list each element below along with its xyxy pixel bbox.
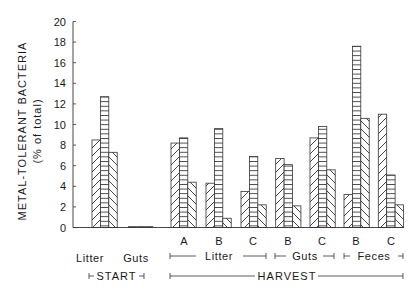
bar (249, 156, 257, 227)
bar (171, 143, 179, 227)
y-axis-title: METAL-TOLERANT BACTERIA (16, 42, 28, 221)
harvest-litter-label: Litter (205, 250, 233, 262)
y-tick-label: 8 (60, 139, 66, 151)
y-tick-label: 16 (54, 57, 66, 69)
harvest-guts-label: Guts (292, 250, 318, 262)
y-tick-label: 20 (54, 16, 66, 28)
bar (179, 138, 187, 228)
bar (310, 138, 318, 228)
bars (92, 46, 404, 227)
bar (206, 183, 214, 227)
bar (188, 182, 196, 227)
y-tick-label: 0 (60, 222, 66, 234)
bar (387, 175, 395, 228)
x-sub-label: A (180, 235, 188, 247)
x-sub-label: C (387, 235, 395, 247)
bar-chart: 02468101214161820 METAL-TOLERANT BACTERI… (0, 0, 419, 295)
start-litter-label: Litter (76, 252, 104, 264)
x-sub-labels: A B C B C B C (180, 235, 395, 247)
y-tick-label: 2 (60, 201, 66, 213)
bar-group-harvest-guts-c (310, 127, 335, 228)
bar-group-harvest-litter-a (171, 138, 196, 228)
x-sub-label: C (249, 235, 257, 247)
x-group-labels: Litter Guts Litter Guts Feces (76, 250, 403, 264)
y-tick-label: 6 (60, 160, 66, 172)
harvest-feces-label: Feces (358, 250, 391, 262)
bar-group-harvest-litter-b (206, 129, 231, 228)
y-tick-label: 10 (54, 119, 66, 131)
y-tick-label: 14 (54, 77, 66, 89)
bar (378, 114, 386, 227)
x-sub-label: C (318, 235, 326, 247)
bar (258, 205, 266, 228)
bar (276, 158, 284, 227)
y-axis-subtitle: (% of total) (31, 98, 43, 163)
bar (395, 205, 403, 228)
bar (109, 152, 117, 227)
bar-group-harvest-feces-b (344, 46, 369, 227)
bar (223, 218, 231, 227)
bar (318, 127, 326, 228)
bar (100, 97, 108, 228)
x-sub-label: B (352, 235, 359, 247)
start-phase-label: START (96, 270, 136, 282)
bar-group-harvest-guts-b (276, 158, 301, 227)
bar-group-harvest-litter-c (241, 156, 266, 227)
bar-group-harvest-feces-c (378, 114, 403, 227)
y-axis: 02468101214161820 (54, 16, 76, 234)
bar (293, 206, 301, 228)
bar (344, 195, 352, 228)
bar (92, 140, 100, 228)
bar (361, 118, 369, 227)
bar (214, 129, 222, 228)
bar (284, 165, 292, 228)
x-sub-label: B (284, 235, 291, 247)
harvest-phase-label: HARVEST (258, 270, 317, 282)
bar (241, 191, 249, 227)
bar (327, 170, 335, 228)
y-tick-label: 12 (54, 98, 66, 110)
x-sub-label: B (215, 235, 222, 247)
start-guts-label: Guts (123, 252, 149, 264)
bar (352, 46, 360, 227)
y-tick-label: 4 (60, 180, 66, 192)
x-phase-labels: START HARVEST (89, 270, 403, 282)
bar-group-start-litter (92, 97, 117, 228)
y-tick-label: 18 (54, 36, 66, 48)
